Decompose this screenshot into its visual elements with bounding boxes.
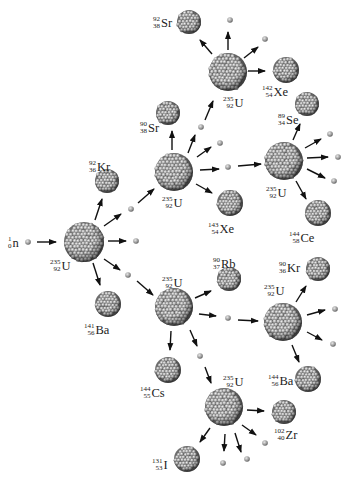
element-symbol: Kr xyxy=(287,261,300,275)
isotope-numbers: 14156 xyxy=(84,323,95,337)
element-symbol: U xyxy=(278,186,287,200)
arrow xyxy=(195,291,211,298)
element-symbol: Kr xyxy=(97,160,110,174)
arrow xyxy=(307,169,325,178)
atomic-number: 56 xyxy=(268,381,279,388)
nucleus-label: 9038Sr xyxy=(140,121,159,135)
arrow xyxy=(199,314,216,316)
isotope-numbers: 9037 xyxy=(213,257,220,271)
fission-product-nucleus xyxy=(271,400,296,424)
nucleus-label: 14254Xe xyxy=(262,85,288,99)
uranium-nucleus xyxy=(155,288,193,326)
neutron xyxy=(262,440,268,446)
element-symbol: Ce xyxy=(301,231,315,245)
nucleus-label: 9037Rb xyxy=(213,257,236,271)
isotope-numbers: 13153 xyxy=(152,458,163,472)
atomic-number: 58 xyxy=(289,238,300,245)
atomic-number: 34 xyxy=(278,120,285,127)
neutron xyxy=(335,154,341,160)
arrow xyxy=(170,331,171,350)
atomic-number: 92 xyxy=(223,382,234,389)
neutron-label: 1 0 n xyxy=(8,236,19,250)
element-symbol: Xe xyxy=(274,85,289,99)
isotope-numbers: 9238 xyxy=(153,16,160,30)
arrow xyxy=(205,101,213,120)
uranium-nucleus xyxy=(64,222,104,262)
nucleus-label: 13153I xyxy=(152,458,168,472)
arrow xyxy=(307,157,328,158)
atomic-number: 36 xyxy=(89,167,96,174)
atomic-number: 38 xyxy=(153,23,160,30)
isotope-numbers: 23592 xyxy=(223,96,234,110)
arrow xyxy=(138,189,154,203)
arrow xyxy=(95,199,102,220)
neutron xyxy=(332,306,338,312)
element-symbol: U xyxy=(276,284,285,298)
fission-product-nucleus xyxy=(154,357,181,383)
atomic-number: 92 xyxy=(223,103,234,110)
uranium-nucleus xyxy=(204,388,243,426)
neutron-isotope-numbers: 1 0 xyxy=(8,236,12,250)
arrow xyxy=(197,147,211,157)
isotope-numbers: 23592 xyxy=(264,284,275,298)
uranium-nucleus xyxy=(264,142,303,180)
neutron xyxy=(220,460,226,466)
neutron xyxy=(133,238,139,244)
atomic-number: 37 xyxy=(213,264,220,271)
arrow xyxy=(104,214,121,226)
arrow xyxy=(305,139,321,148)
arrow xyxy=(200,40,212,54)
isotope-numbers: 14455 xyxy=(140,386,151,400)
neutron xyxy=(198,124,204,130)
nucleus-label: 8934Se xyxy=(278,113,299,127)
nucleus-label: 14354Xe xyxy=(208,222,234,236)
element-symbol: Sr xyxy=(161,16,172,30)
element-symbol: U xyxy=(235,96,244,110)
arrow xyxy=(200,428,210,442)
nucleus-label: 14456Ba xyxy=(268,374,293,388)
atomic-number: 92 xyxy=(266,193,277,200)
isotope-numbers: 14456 xyxy=(268,374,279,388)
element-symbol: Xe xyxy=(220,222,235,236)
element-symbol: Zr xyxy=(286,428,298,442)
atomic-number: 53 xyxy=(152,465,163,472)
isotope-numbers: 23592 xyxy=(162,196,173,210)
nucleus-label: 23592U xyxy=(223,96,244,110)
atomic-number: 36 xyxy=(279,268,286,275)
isotope-numbers: 23592 xyxy=(266,186,277,200)
fission-chain-diagram: 1 0 n 23592U9236Kr14156Ba23592U9038Sr143… xyxy=(0,0,346,480)
element-symbol: Sr xyxy=(148,121,159,135)
neutron xyxy=(227,17,233,23)
arrow xyxy=(244,47,258,58)
nucleus-label: 9036Kr xyxy=(279,261,300,275)
neutron xyxy=(225,315,231,321)
arrow xyxy=(93,263,100,285)
arrow xyxy=(296,286,306,302)
arrow xyxy=(238,320,258,321)
uranium-nucleus xyxy=(263,303,302,341)
nucleus-label: 23592U xyxy=(162,276,183,290)
neutron xyxy=(330,341,336,347)
neutron xyxy=(327,131,333,137)
fission-product-nucleus xyxy=(273,57,299,83)
element-symbol: U xyxy=(62,259,71,273)
arrow xyxy=(235,433,241,452)
arrow xyxy=(292,345,299,362)
nucleus-label: 14156Ba xyxy=(84,323,109,337)
element-symbol: Ba xyxy=(96,323,110,337)
nucleus-label: 9238Sr xyxy=(153,16,172,30)
atomic-number: 92 xyxy=(162,283,173,290)
fission-product-nucleus xyxy=(216,190,243,216)
arrow xyxy=(200,169,219,170)
nucleus-label: 14455Cs xyxy=(140,386,165,400)
atomic-number: 54 xyxy=(262,92,273,99)
element-symbol: U xyxy=(235,375,244,389)
arrow xyxy=(104,259,120,270)
nucleus-label: 23592U xyxy=(264,284,285,298)
element-symbol: Se xyxy=(286,113,299,127)
fission-product-nucleus xyxy=(305,200,331,226)
element-symbol: Cs xyxy=(152,386,165,400)
atomic-number: 40 xyxy=(274,435,285,442)
fission-product-nucleus xyxy=(174,446,200,472)
neutron xyxy=(331,178,337,184)
